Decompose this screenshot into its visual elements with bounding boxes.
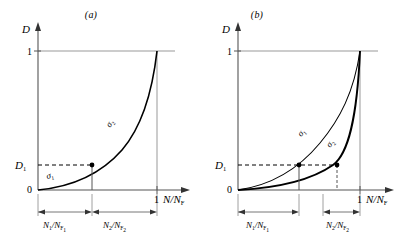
panel-b-x-axis-arrow [385,187,394,193]
panel-a-y-tick-label-1: 1 [27,46,32,57]
panel-a-dim2-arrow-right [150,209,157,214]
panel-b-plot: D 1 0 1 D1 N/NF σ1 σ2 N1/NF1 N2/NF2 [200,0,404,242]
figure-container: (a) [0,0,404,242]
panel-b-y-tick-label-0: 0 [227,184,232,195]
panel-b-x-tick-label-1: 1 [357,194,362,205]
panel-b-y-tick-label-1: 1 [227,46,232,57]
panel-a-x-tick-label-1: 1 [154,194,159,205]
panel-b-dim2-label: N2/NF2 [325,220,349,233]
panel-b-y-axis-arrow [235,22,241,31]
panel-b-x-axis-label: N/NF [365,193,388,206]
panel-a-transition-point [90,163,95,168]
panel-b-dim1-arrow-right [292,209,299,214]
panel-a-y-tick-label-0: 0 [27,184,32,195]
panel-b-dim1-arrow-left [238,209,245,214]
panel-b-sigma2-point [335,163,340,168]
panel-a-plot: D 1 0 1 D1 N/NF σ1 σ2 N1/NF1 [0,0,202,242]
panel-a-x-axis-arrow [181,187,190,193]
panel-a-y-axis-label: D [21,23,30,35]
panel-a-d1-label: D1 [14,159,26,172]
panel-b-dim1-label: N1/NF1 [245,220,269,233]
panel-b: (b) [200,0,402,242]
panel-a-x-axis-label: N/NF [162,193,185,206]
panel-b-y-axis-label: D [221,23,230,35]
panel-b-dim2-arrow-left [323,209,330,214]
panel-a-damage-curve [38,51,157,190]
panel-b-sigma1-point [297,163,302,168]
panel-b-dim2-arrow-right [353,209,360,214]
panel-a-sigma1-label: σ1 [45,170,55,182]
panel-b-d1-label: D1 [214,159,226,172]
panel-b-sigma2-label: σ2 [324,137,337,150]
panel-a-dim2-arrow-left [92,209,99,214]
panel-a-dim2-label: N2/NF2 [102,220,126,233]
panel-a: (a) [0,0,202,242]
panel-a-dim1-label: N1/NF1 [42,220,66,233]
panel-a-y-axis-arrow [35,22,41,31]
panel-a-dim1-arrow-right [85,209,92,214]
panel-b-sigma1-label: σ1 [295,126,308,139]
panel-a-sigma2-label: σ2 [104,117,117,129]
panel-a-dim1-arrow-left [38,209,45,214]
